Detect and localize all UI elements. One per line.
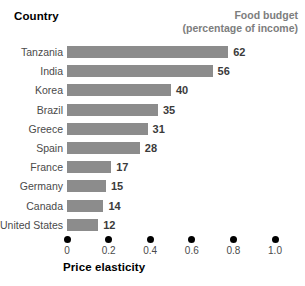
axis-tick-label: 0.8 xyxy=(213,245,253,256)
bar-container xyxy=(67,104,158,116)
bar-value-label: 31 xyxy=(153,123,165,135)
axis-tick-dot xyxy=(230,236,237,243)
bar-container xyxy=(67,219,98,231)
country-label: Canada xyxy=(0,200,63,212)
x-axis: Price elasticity 00.20.40.60.81.0 xyxy=(0,236,305,286)
bar-container xyxy=(67,46,228,58)
bar-value-label: 17 xyxy=(116,161,128,173)
axis-tick-label: 1.0 xyxy=(255,245,295,256)
bar-value-label: 12 xyxy=(103,219,115,231)
bar-value-label: 35 xyxy=(163,104,175,116)
bar-value-label: 62 xyxy=(233,46,245,58)
bar xyxy=(67,84,171,96)
bar xyxy=(67,161,111,173)
table-row: Tanzania62 xyxy=(0,44,305,63)
table-row: Korea40 xyxy=(0,82,305,101)
country-label: Greece xyxy=(0,123,63,135)
bar-rows: Tanzania62India56Korea40Brazil35Greece31… xyxy=(0,44,305,236)
table-row: India56 xyxy=(0,63,305,82)
table-row: Germany15 xyxy=(0,178,305,197)
bar-value-label: 15 xyxy=(111,180,123,192)
bar-container xyxy=(67,123,148,135)
table-row: Brazil35 xyxy=(0,102,305,121)
table-row: Canada14 xyxy=(0,198,305,217)
country-label: Korea xyxy=(0,84,63,96)
bar xyxy=(67,123,148,135)
bar xyxy=(67,142,140,154)
bar-value-label: 14 xyxy=(108,200,120,212)
bar-value-label: 56 xyxy=(218,65,230,77)
bar-container xyxy=(67,65,213,77)
country-label: Germany xyxy=(0,180,63,192)
axis-tick-dot xyxy=(105,236,112,243)
bar xyxy=(67,180,106,192)
x-axis-title: Price elasticity xyxy=(63,261,145,273)
bar-container xyxy=(67,161,111,173)
axis-tick-dot xyxy=(147,236,154,243)
bar xyxy=(67,219,98,231)
bar xyxy=(67,46,228,58)
axis-tick-dot xyxy=(272,236,279,243)
table-row: Greece31 xyxy=(0,121,305,140)
country-label: Spain xyxy=(0,142,63,154)
bar-value-label: 40 xyxy=(176,84,188,96)
axis-tick-dot xyxy=(64,236,71,243)
country-column-header: Country xyxy=(14,10,59,22)
bar xyxy=(67,200,103,212)
country-label: United States xyxy=(0,219,63,231)
food-budget-price-elasticity-chart: Country Food budget (percentage of incom… xyxy=(0,0,305,286)
bar xyxy=(67,104,158,116)
country-label: India xyxy=(0,65,63,77)
axis-tick-dot xyxy=(188,236,195,243)
bar-value-label: 28 xyxy=(145,142,157,154)
country-label: Tanzania xyxy=(0,46,63,58)
bar-container xyxy=(67,180,106,192)
axis-tick-label: 0.6 xyxy=(172,245,212,256)
bar-container xyxy=(67,200,103,212)
axis-tick-label: 0 xyxy=(47,245,87,256)
axis-tick-label: 0.4 xyxy=(130,245,170,256)
bar-container xyxy=(67,84,171,96)
table-row: Spain28 xyxy=(0,140,305,159)
food-budget-column-header: Food budget (percentage of income) xyxy=(108,9,298,34)
food-budget-header-line-2: (percentage of income) xyxy=(108,22,298,35)
bar xyxy=(67,65,213,77)
food-budget-header-line-1: Food budget xyxy=(108,9,298,22)
country-label: France xyxy=(0,161,63,173)
bar-container xyxy=(67,142,140,154)
table-row: France17 xyxy=(0,159,305,178)
axis-tick-label: 0.2 xyxy=(89,245,129,256)
table-row: United States12 xyxy=(0,217,305,236)
country-label: Brazil xyxy=(0,104,63,116)
